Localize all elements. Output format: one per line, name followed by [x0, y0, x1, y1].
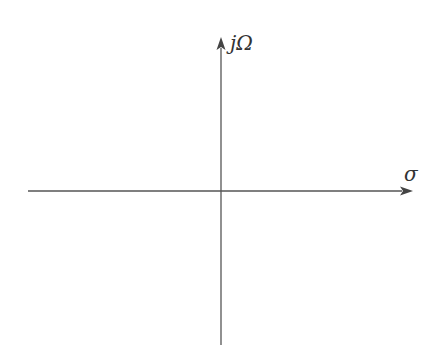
imaginary-axis-label: jΩ [226, 31, 253, 55]
s-plane-diagram: jΩ σ [0, 0, 437, 359]
real-axis-label: σ [404, 162, 419, 186]
